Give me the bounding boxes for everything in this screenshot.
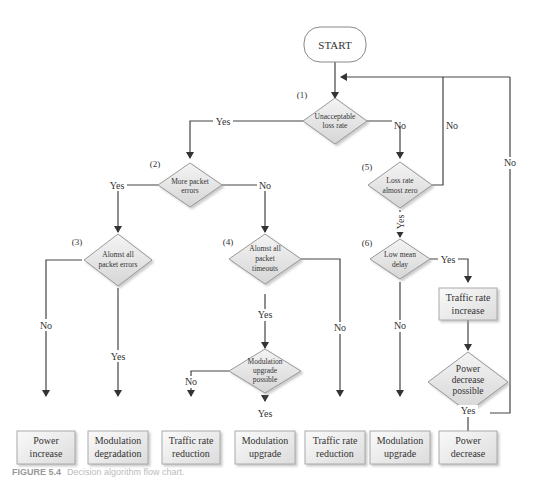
decision-4-line-3: timeouts	[252, 264, 278, 273]
step-4-label: (4)	[223, 237, 234, 247]
decision-m-line-3: possible	[253, 375, 278, 384]
action-line: upgrade	[384, 448, 417, 459]
action-line: degradation	[94, 448, 141, 459]
decision-3-line-1: Alomst all	[102, 250, 133, 259]
decision-2: More packet errors (2)	[150, 159, 222, 207]
decision-5: Loss rate almost zero (5)	[362, 162, 432, 208]
edge-m-no: No	[185, 376, 197, 387]
decision-3: Alomst all packet errors (3)	[72, 234, 152, 286]
action-line: decrease	[451, 448, 486, 459]
decision-m-line-2: upgrade	[253, 366, 278, 375]
decision-1-line-1: Unacceptable	[315, 112, 356, 121]
start-label: START	[318, 39, 352, 51]
decision-4-line-1: Alomst all	[249, 244, 280, 253]
decision-2-line-1: More packet	[171, 177, 210, 186]
decision-5-line-1: Loss rate	[386, 176, 414, 185]
step-3-label: (3)	[72, 237, 83, 247]
edge-2-no: No	[259, 180, 271, 191]
decision-p-line-3: possible	[452, 386, 483, 396]
step-6-label: (6)	[362, 238, 373, 248]
step-2-label: (2)	[150, 159, 161, 169]
action-modulation-degradation: Modulation degradation	[88, 431, 148, 464]
step-5-label: (5)	[362, 162, 373, 172]
decision-p-line-1: Power	[456, 364, 481, 374]
action-line: Traffic rate	[169, 435, 214, 446]
decision-6-line-1: Low mean	[384, 250, 416, 259]
edge-1-no: No	[394, 120, 406, 131]
edge-6-yes: Yes	[441, 254, 456, 265]
action-modulation-upgrade-1: Modulation upgrade	[235, 431, 295, 464]
flowchart: START Unacceptable loss rate (1) More pa…	[0, 0, 535, 482]
action-power-increase: Power increase	[17, 431, 75, 464]
edge-2-yes: Yes	[110, 180, 125, 191]
decision-power-decrease-possible: Power decrease possible	[428, 352, 508, 412]
action-modulation-upgrade-2: Modulation upgrade	[370, 431, 430, 464]
decision-2-line-2: errors	[181, 186, 199, 195]
edge-4-no: No	[334, 322, 346, 333]
figure-number: FIGURE 5.4	[12, 467, 61, 477]
edge-3-yes: Yes	[111, 351, 126, 362]
action-line: upgrade	[249, 448, 282, 459]
edge-p-yes: Yes	[461, 405, 476, 416]
action-line: increase	[30, 448, 63, 459]
decision-6: Low mean delay (6)	[362, 238, 430, 279]
action-line: Power	[455, 435, 481, 446]
action-line: Traffic rate	[313, 435, 358, 446]
decision-1: Unacceptable loss rate (1)	[297, 90, 367, 144]
start-node: START	[304, 27, 366, 62]
decision-m-line-1: Modulation	[248, 357, 283, 366]
action-line: increase	[452, 305, 485, 316]
edge-5-yes: Yes	[395, 215, 406, 230]
decision-5-line-2: almost zero	[383, 186, 418, 195]
action-traffic-rate-reduction-2: Traffic rate reduction	[305, 431, 365, 464]
edge-m-yes: Yes	[258, 408, 273, 419]
edge-6-no: No	[394, 320, 406, 331]
edge-p-no: No	[504, 157, 516, 168]
decision-1-line-2: loss rate	[323, 121, 348, 130]
action-line: Modulation	[242, 435, 289, 446]
edge-5-no: No	[446, 120, 458, 131]
decision-3-line-2: packet errors	[99, 260, 138, 269]
figure-caption: FIGURE 5.4Decision algorithm flow chart.	[12, 467, 185, 477]
step-1-label: (1)	[297, 90, 308, 100]
action-line: Power	[33, 435, 59, 446]
decision-6-line-2: delay	[392, 260, 408, 269]
edge-3-no: No	[40, 320, 52, 331]
action-line: Modulation	[377, 435, 424, 446]
action-line: reduction	[172, 448, 210, 459]
action-traffic-rate-increase: Traffic rate increase	[439, 288, 497, 320]
action-line: Traffic rate	[446, 292, 491, 303]
decision-p-line-2: decrease	[452, 375, 485, 385]
edge-4-yes: Yes	[258, 309, 273, 320]
action-line: reduction	[316, 448, 354, 459]
decision-modulation-upgrade-possible: Modulation upgrade possible	[229, 349, 301, 393]
action-power-decrease: Power decrease	[439, 431, 497, 464]
figure-caption-text: Decision algorithm flow chart.	[67, 467, 185, 477]
action-line: Modulation	[95, 435, 142, 446]
edge-1-yes: Yes	[216, 116, 231, 127]
decision-4-line-2: packet	[255, 254, 275, 263]
action-traffic-rate-reduction-1: Traffic rate reduction	[162, 431, 220, 464]
decision-4: Alomst all packet timeouts (4)	[223, 234, 301, 284]
